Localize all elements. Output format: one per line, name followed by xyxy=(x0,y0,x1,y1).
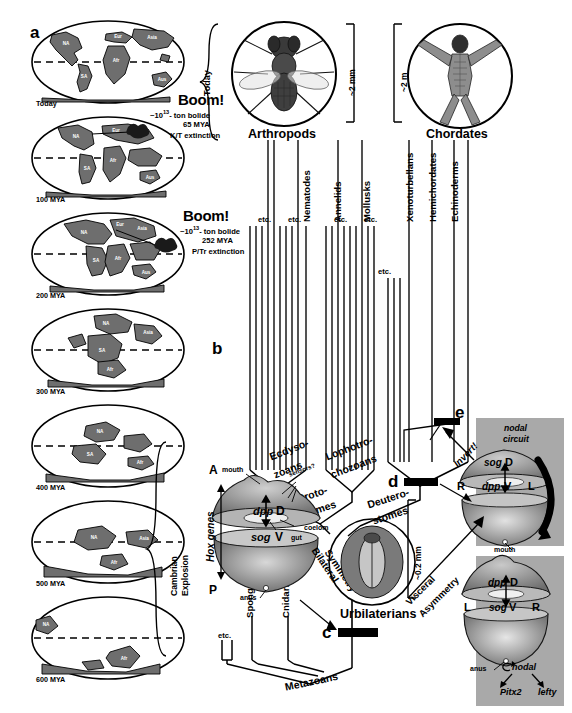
inset-upper-sog: sog xyxy=(484,458,502,468)
inset-lower-R: R xyxy=(532,602,540,613)
urbilaterian-label-mouth: mouth xyxy=(222,466,243,473)
clade-label-urbilaterians: Urbilaterians xyxy=(340,608,416,621)
inset-upper-V: V xyxy=(504,481,511,492)
urbilaterian-label-sog: sog xyxy=(251,532,271,543)
urbilaterian-label-anus: anus xyxy=(240,594,256,601)
inset-lower-anus: anus xyxy=(470,665,486,672)
inset-lower-D: D xyxy=(510,577,518,588)
ap-axis-arrow xyxy=(214,478,228,588)
panel-d-leader xyxy=(438,470,478,504)
urbilaterian-label-dorsal: D xyxy=(276,505,285,517)
urbilaterian-label-ventral: V xyxy=(275,531,283,543)
axis-label-anterior: A xyxy=(209,464,218,476)
panel-e-letter: e xyxy=(455,404,464,421)
axis-label-hox-genes: Hox genes xyxy=(206,511,216,562)
urbilaterian-label-dpp: dpp xyxy=(253,506,273,517)
inset-upper-dpp: dpp xyxy=(482,482,500,492)
panel-d-letter: d xyxy=(388,473,398,490)
inset-lower-nodal: nodal xyxy=(512,663,536,672)
inset-upper-D: D xyxy=(505,457,513,468)
urbilaterian-label-coelom: coelom xyxy=(304,524,329,531)
urbilaterian-label-gut: gut xyxy=(291,534,302,541)
panel-c-letter: c xyxy=(322,624,331,641)
node-marker-c xyxy=(338,628,378,637)
nodal-circuit-label-1: nodal xyxy=(504,424,527,433)
inset-lower-sog: sog xyxy=(489,603,507,613)
inset-lower-V: V xyxy=(509,602,516,613)
axis-label-posterior: P xyxy=(209,584,217,596)
node-marker-d xyxy=(404,478,438,486)
nodal-target-arrows xyxy=(498,672,554,690)
nodal-rotation-arrow xyxy=(532,448,566,546)
figure-root: a xyxy=(0,0,572,713)
